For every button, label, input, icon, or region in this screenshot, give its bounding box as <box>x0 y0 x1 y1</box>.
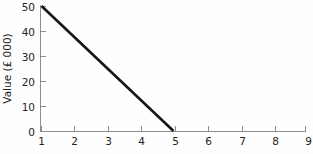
x-tick-label-9: 9 <box>305 135 312 147</box>
data-series-value <box>42 6 174 131</box>
line-chart: 0 10 20 30 40 50 1 2 3 4 5 6 7 8 9 Value… <box>0 0 313 154</box>
x-tick-label-3: 3 <box>105 135 112 147</box>
chart-container: 0 10 20 30 40 50 1 2 3 4 5 6 7 8 9 Value… <box>0 0 313 154</box>
y-tick-label-10: 10 <box>22 101 35 113</box>
y-tick-label-20: 20 <box>22 76 35 88</box>
x-tick-label-4: 4 <box>138 135 145 147</box>
y-axis-ticks <box>41 7 47 132</box>
x-tick-label-1: 1 <box>38 135 45 147</box>
y-tick-label-0: 0 <box>28 126 35 138</box>
y-tick-label-50: 50 <box>22 1 35 13</box>
y-axis-tick-labels: 0 10 20 30 40 50 <box>22 1 35 138</box>
x-tick-label-7: 7 <box>239 135 246 147</box>
x-tick-label-5: 5 <box>172 135 179 147</box>
x-tick-label-2: 2 <box>71 135 78 147</box>
x-axis-tick-labels: 1 2 3 4 5 6 7 8 9 <box>38 135 312 147</box>
x-tick-label-8: 8 <box>272 135 279 147</box>
y-tick-label-40: 40 <box>22 26 35 38</box>
x-tick-label-6: 6 <box>205 135 212 147</box>
y-tick-label-30: 30 <box>22 51 35 63</box>
y-axis-title: Value (£ 000) <box>1 33 13 103</box>
